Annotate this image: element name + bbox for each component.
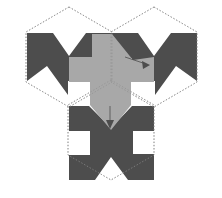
figure-root [0, 0, 222, 198]
tiling-diagram [0, 0, 222, 198]
